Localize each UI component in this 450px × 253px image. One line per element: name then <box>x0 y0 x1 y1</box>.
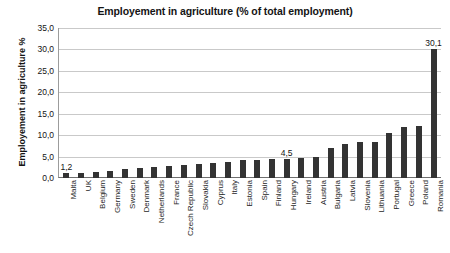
y-axis-tick-label: 0,0 <box>16 173 54 183</box>
y-axis-tick-label: 5,0 <box>16 152 54 162</box>
x-axis-label-slot: Greece <box>397 180 412 250</box>
bar-slot <box>206 28 221 178</box>
chart-title: Employement in agriculture (% of total e… <box>0 5 450 17</box>
y-axis-tick-label: 35,0 <box>16 23 54 33</box>
x-axis-label-slot: Lithuania <box>367 180 382 250</box>
bar[interactable] <box>107 171 113 178</box>
x-axis-label-slot: Poland <box>412 180 427 250</box>
y-axis-tick-label: 20,0 <box>16 87 54 97</box>
bar[interactable] <box>151 167 157 178</box>
bar-slot: 4,5 <box>279 28 294 178</box>
bar-slot <box>235 28 250 178</box>
bar-slot <box>103 28 118 178</box>
y-axis-tick-label: 30,0 <box>16 44 54 54</box>
bar[interactable] <box>328 148 334 178</box>
bar-slot <box>147 28 162 178</box>
bar-slot <box>338 28 353 178</box>
bar[interactable] <box>63 173 69 178</box>
x-axis-label-slot: Denmark <box>132 180 147 250</box>
bar[interactable] <box>284 159 290 178</box>
bar-slot <box>323 28 338 178</box>
x-axis-label-slot: Netherlands <box>147 180 162 250</box>
bar-slot <box>382 28 397 178</box>
bar-slot <box>309 28 324 178</box>
bar-slot: 30,1 <box>426 28 441 178</box>
x-axis-label-slot: France <box>162 180 177 250</box>
bar[interactable] <box>254 160 260 178</box>
bar[interactable] <box>298 158 304 178</box>
x-axis-label-slot: Sweden <box>118 180 133 250</box>
x-axis-label-slot: UK <box>74 180 89 250</box>
bar[interactable] <box>93 172 99 178</box>
bar-slot <box>177 28 192 178</box>
bar[interactable] <box>372 142 378 178</box>
bar[interactable] <box>78 173 84 178</box>
x-axis-label-slot: Hungary <box>279 180 294 250</box>
x-axis-label-slot: Belgium <box>88 180 103 250</box>
bar[interactable] <box>225 162 231 178</box>
x-axis-label-slot: Slovakia <box>191 180 206 250</box>
bar-slot <box>412 28 427 178</box>
bar[interactable] <box>401 127 407 178</box>
x-axis-label-slot: Latvia <box>338 180 353 250</box>
bar[interactable] <box>269 159 275 178</box>
bar[interactable] <box>240 160 246 178</box>
data-label: 30,1 <box>414 38 450 48</box>
x-axis-label-slot: Slovenia <box>353 180 368 250</box>
bar-slot <box>367 28 382 178</box>
bar-slot <box>132 28 147 178</box>
bar[interactable] <box>313 157 319 178</box>
bar-slot <box>118 28 133 178</box>
bar-slot: 1,2 <box>59 28 74 178</box>
x-axis-tick-label: Romania <box>437 180 445 212</box>
bar-slot <box>294 28 309 178</box>
x-axis-label-slot: Spain <box>250 180 265 250</box>
x-axis-label-slot: Portugal <box>382 180 397 250</box>
bar-slot <box>162 28 177 178</box>
y-axis-tick-label: 10,0 <box>16 130 54 140</box>
x-axis-label-slot: Bulgaria <box>323 180 338 250</box>
x-axis-label-slot: Finland <box>265 180 280 250</box>
bar[interactable] <box>357 142 363 178</box>
bar-slot <box>221 28 236 178</box>
x-axis-label-slot: Italy <box>221 180 236 250</box>
x-axis-tick-labels: MaltaUKBelgiumGermanySwedenDenmarkNether… <box>59 180 441 250</box>
bar-slot <box>250 28 265 178</box>
bar-slot <box>397 28 412 178</box>
x-axis-label-slot: Romania <box>426 180 441 250</box>
x-axis-label-slot: Malta <box>59 180 74 250</box>
x-axis-label-slot: Cyprus <box>206 180 221 250</box>
x-axis-label-slot: Austria <box>309 180 324 250</box>
bar-slot <box>88 28 103 178</box>
bar[interactable] <box>210 163 216 178</box>
bar[interactable] <box>181 165 187 178</box>
bar-slot <box>191 28 206 178</box>
bar[interactable] <box>342 144 348 178</box>
y-axis-tick-label: 15,0 <box>16 109 54 119</box>
bar-slot <box>353 28 368 178</box>
x-axis-label-slot: Czech Republic <box>177 180 192 250</box>
bar[interactable] <box>166 166 172 178</box>
bar[interactable] <box>386 133 392 178</box>
chart-container: Employement in agriculture (% of total e… <box>0 0 450 253</box>
y-axis-tick-label: 25,0 <box>16 66 54 76</box>
bar[interactable] <box>122 169 128 178</box>
bar-series: 1,24,530,1 <box>59 28 441 178</box>
bar-slot <box>74 28 89 178</box>
bar[interactable] <box>431 49 437 178</box>
bar[interactable] <box>137 168 143 178</box>
x-axis-label-slot: Ireland <box>294 180 309 250</box>
x-axis-label-slot: Germany <box>103 180 118 250</box>
bar[interactable] <box>416 126 422 178</box>
bar[interactable] <box>196 164 202 178</box>
x-axis-label-slot: Estonia <box>235 180 250 250</box>
